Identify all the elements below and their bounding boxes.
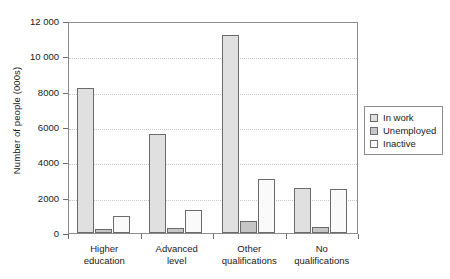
bar-chart: Number of people (000s) 0200040006000800… <box>0 0 450 279</box>
legend: In workUnemployedInactive <box>364 106 443 155</box>
bar <box>77 88 94 233</box>
legend-swatch <box>370 114 378 122</box>
y-axis-tick-label: 10 000 <box>0 52 59 62</box>
legend-label: Inactive <box>383 139 416 149</box>
y-axis-tick-label: 2000 <box>0 194 59 204</box>
x-axis-tick <box>358 234 359 239</box>
bar <box>240 221 257 233</box>
legend-label: Unemployed <box>383 126 436 136</box>
x-axis-category-label: Noqualifications <box>276 243 369 267</box>
bar <box>258 179 275 233</box>
x-axis-tick <box>213 234 214 239</box>
bar <box>330 189 347 233</box>
legend-item: In work <box>370 111 436 124</box>
y-axis-tick-label: 8000 <box>0 88 59 98</box>
bar <box>113 216 130 233</box>
bar <box>167 228 184 233</box>
bar <box>222 35 239 233</box>
bar <box>294 188 311 233</box>
plot-area <box>68 22 358 234</box>
x-axis-category-label-line: No <box>276 243 369 255</box>
legend-item: Inactive <box>370 137 436 150</box>
gridline <box>69 58 357 59</box>
bar <box>312 227 329 233</box>
y-axis-tick-label: 6000 <box>0 123 59 133</box>
legend-item: Unemployed <box>370 124 436 137</box>
bar <box>185 210 202 233</box>
x-axis-tick <box>68 234 69 239</box>
gridline <box>69 200 357 201</box>
legend-swatch <box>370 127 378 135</box>
gridline <box>69 164 357 165</box>
y-axis-tick-label: 4000 <box>0 158 59 168</box>
x-axis-tick <box>286 234 287 239</box>
legend-swatch <box>370 140 378 148</box>
bar <box>149 134 166 233</box>
gridline <box>69 94 357 95</box>
gridline <box>69 129 357 130</box>
y-axis-tick-label: 0 <box>0 229 59 239</box>
x-axis-category-label-line: qualifications <box>276 255 369 267</box>
bar <box>95 229 112 233</box>
x-axis-tick <box>141 234 142 239</box>
legend-label: In work <box>383 113 414 123</box>
y-axis-tick-label: 12 000 <box>0 17 59 27</box>
